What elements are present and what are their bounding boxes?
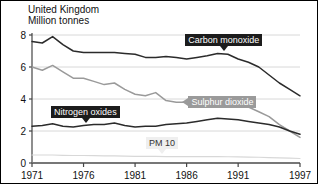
x-tick-label: 1976	[72, 170, 95, 181]
series-label-carbon-monoxide: Carbon monoxide	[185, 34, 262, 46]
series-label-pm10: PM 10	[146, 137, 178, 149]
chart-frame: United Kingdom Million tonnes 0246819711…	[0, 0, 318, 184]
carbon-monoxide-pointer-icon	[220, 46, 228, 51]
y-tick-label: 6	[20, 62, 26, 73]
series-line-nitrogen-oxides	[32, 118, 300, 134]
y-tick-label: 8	[20, 30, 26, 41]
x-tick-label: 1997	[289, 170, 312, 181]
sulphur-dioxide-pointer-icon	[182, 98, 188, 106]
x-tick-label: 1986	[175, 170, 198, 181]
series-label-sulphur-dioxide: Sulphur dioxide	[188, 96, 256, 108]
y-tick-label: 4	[20, 94, 26, 105]
nitrogen-oxides-pointer-icon	[82, 118, 90, 123]
y-tick-label: 0	[20, 158, 26, 169]
line-chart: 02468197119761981198619911997 Carbon mon…	[1, 1, 318, 184]
x-tick-label: 1971	[21, 170, 44, 181]
pm10-pointer-icon	[158, 149, 166, 154]
x-tick-label: 1991	[227, 170, 250, 181]
y-tick-label: 2	[20, 126, 26, 137]
series-label-nitrogen-oxides: Nitrogen oxides	[51, 106, 120, 118]
chart-svg: 02468197119761981198619911997	[1, 1, 318, 184]
series-line-pm-10	[32, 155, 300, 159]
x-tick-label: 1981	[124, 170, 147, 181]
